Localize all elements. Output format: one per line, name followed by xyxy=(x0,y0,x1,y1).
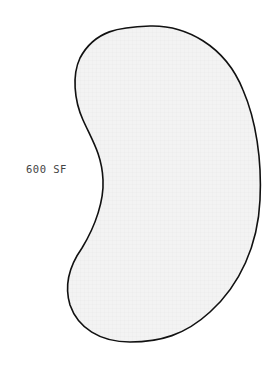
kidney-shape-diagram xyxy=(0,0,272,379)
kidney-outline xyxy=(68,26,261,342)
area-label: 600 SF xyxy=(26,163,67,175)
